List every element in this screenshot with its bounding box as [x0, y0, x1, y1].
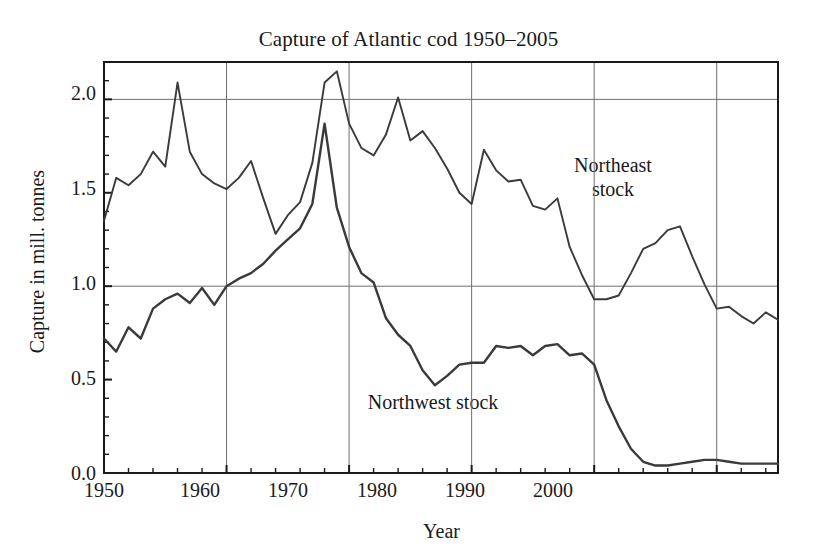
- axis-ticks: [104, 62, 766, 473]
- chart-figure: Capture of Atlantic cod 1950–2005 Captur…: [0, 0, 817, 560]
- gridlines: [104, 62, 778, 473]
- plot-canvas: [0, 0, 817, 560]
- series-line-northwest-stock: [104, 124, 778, 466]
- series-paths: [104, 71, 778, 465]
- plot-frame: [104, 62, 778, 473]
